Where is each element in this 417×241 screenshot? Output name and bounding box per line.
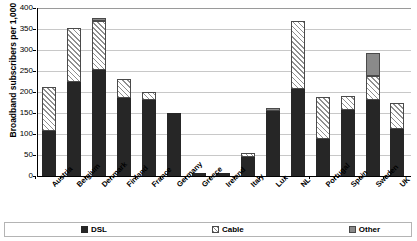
x-axis-category-labels: AustriaBelgiumDenmarkFinlandFranceGerman… [37, 178, 410, 220]
legend-label: Other [359, 225, 380, 234]
y-axis-tick-mark [33, 155, 36, 156]
broadband-stacked-bar-chart: Broadband subscribers per 1,000 househol… [0, 0, 417, 241]
chart-legend: DSLCableOther [4, 222, 412, 237]
bar-group [117, 8, 131, 176]
bar-group [241, 8, 255, 176]
bar-group [167, 8, 181, 176]
x-label-slot: Finland [117, 178, 131, 220]
bar-segment-cable [366, 76, 380, 100]
bar-segment-cable [390, 103, 404, 129]
y-axis-tick-mark [33, 113, 36, 114]
bar-segment-dsl [67, 82, 81, 176]
bar-segment-dsl [42, 131, 56, 176]
y-axis-tick-marks [0, 8, 40, 176]
x-label-slot: Sweden [366, 178, 380, 220]
y-axis-tick-mark [33, 71, 36, 72]
bar-series-container [37, 8, 410, 176]
dsl-swatch-icon [81, 226, 88, 233]
x-label-slot: Lux [266, 178, 280, 220]
bar-segment-dsl [92, 70, 106, 176]
y-axis-tick-mark [33, 50, 36, 51]
x-label-slot: Ireland [216, 178, 230, 220]
legend-item-cable: Cable [212, 225, 244, 234]
legend-label: DSL [91, 225, 107, 234]
bar-group [390, 8, 404, 176]
bar-segment-cable [341, 96, 355, 110]
x-label-slot: Portugal [316, 178, 330, 220]
x-label-slot: NL [291, 178, 305, 220]
bar-group [216, 8, 230, 176]
bar-segment-cable [67, 28, 81, 82]
bar-group [266, 8, 280, 176]
x-label-slot: France [142, 178, 156, 220]
bar-segment-dsl [366, 100, 380, 176]
bar-segment-cable [42, 87, 56, 131]
bar-group [366, 8, 380, 176]
cable-swatch-icon [212, 226, 219, 233]
bar-group [42, 8, 56, 176]
bar-group [67, 8, 81, 176]
bar-group [291, 8, 305, 176]
x-axis-label-nl: NL [299, 176, 312, 189]
x-label-slot: Greece [192, 178, 206, 220]
y-axis-tick-mark [33, 92, 36, 93]
bar-group [341, 8, 355, 176]
bar-segment-other [366, 53, 380, 77]
bar-group [316, 8, 330, 176]
y-axis-tick-mark [33, 8, 36, 9]
x-label-slot: UK [390, 178, 404, 220]
bar-segment-dsl [266, 111, 280, 176]
other-swatch-icon [349, 226, 356, 233]
x-label-slot: Austria [42, 178, 56, 220]
bar-segment-cable [316, 97, 330, 139]
bar-segment-cable [142, 92, 156, 100]
x-label-slot: Denmark [92, 178, 106, 220]
bar-segment-cable [92, 21, 106, 71]
legend-item-other: Other [349, 225, 380, 234]
legend-item-dsl: DSL [81, 225, 107, 234]
bar-group [92, 8, 106, 176]
bar-segment-cable [117, 79, 131, 98]
x-label-slot: Belgium [67, 178, 81, 220]
bar-segment-cable [291, 21, 305, 88]
y-axis-tick-mark [33, 134, 36, 135]
bar-segment-dsl [316, 139, 330, 176]
x-axis-label-uk: UK [399, 176, 412, 189]
legend-label: Cable [222, 225, 244, 234]
y-axis-tick-mark [33, 29, 36, 30]
bar-group [142, 8, 156, 176]
x-label-slot: Germany [167, 178, 181, 220]
bar-group [192, 8, 206, 176]
bar-segment-dsl [291, 89, 305, 176]
x-label-slot: Spain [341, 178, 355, 220]
x-label-slot: Italy [241, 178, 255, 220]
